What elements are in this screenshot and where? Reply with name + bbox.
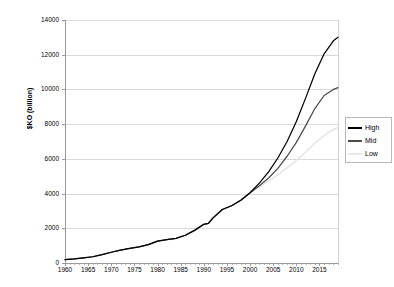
y-tick-label: 14000 <box>21 16 59 23</box>
plot-right-border <box>338 20 339 263</box>
series-paths <box>65 20 338 263</box>
x-tick-label: 2015 <box>304 266 334 273</box>
y-tick-label: 10000 <box>21 85 59 92</box>
legend-swatch-mid <box>348 140 362 142</box>
y-tick-label: 4000 <box>21 190 59 197</box>
legend-item-high[interactable]: High <box>348 121 389 134</box>
legend-label: Low <box>365 149 378 158</box>
y-tick-label: 0 <box>21 259 59 266</box>
x-tick-minor <box>338 263 339 265</box>
y-tick-label: 6000 <box>21 155 59 162</box>
chart-figure: $KO (billion) 02000400060008000100001200… <box>0 0 394 287</box>
legend-label: Mid <box>365 136 376 145</box>
legend-label: High <box>365 123 379 132</box>
y-tick-label: 8000 <box>21 120 59 127</box>
plot-area <box>65 20 338 263</box>
series-line-high <box>65 37 338 259</box>
y-tick-label: 2000 <box>21 224 59 231</box>
series-line-mid <box>65 88 338 260</box>
legend-item-mid[interactable]: Mid <box>348 134 389 147</box>
legend-item-low[interactable]: Low <box>348 147 389 160</box>
legend-swatch-low <box>348 153 362 155</box>
y-tick-label: 12000 <box>21 51 59 58</box>
y-axis-title: $KO (billion) <box>26 64 33 154</box>
chart-legend: HighMidLow <box>345 117 392 163</box>
legend-swatch-high <box>348 127 362 129</box>
x-axis-line <box>65 263 338 264</box>
series-line-low <box>65 128 338 260</box>
